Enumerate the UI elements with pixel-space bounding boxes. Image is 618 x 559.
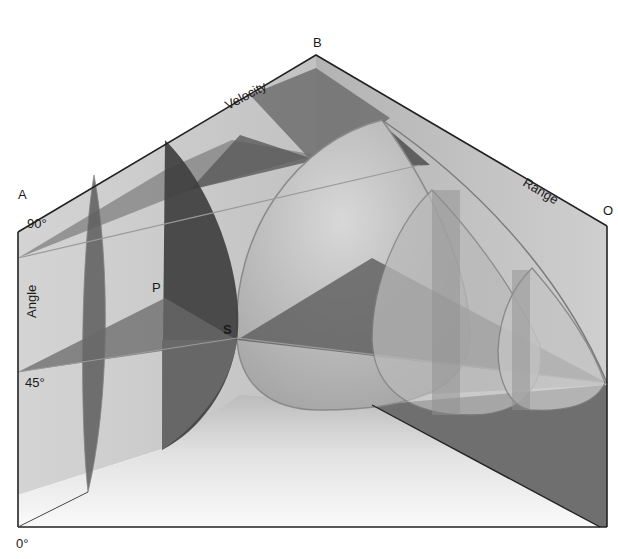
- corner-label-o: O: [603, 203, 613, 218]
- point-label-s: S: [223, 322, 232, 337]
- corner-label-a: A: [18, 187, 27, 202]
- tick-45-degrees: 45°: [25, 375, 45, 390]
- corner-label-b: B: [313, 35, 322, 50]
- tick-90-degrees: 90°: [27, 216, 47, 231]
- tick-0-degrees: 0°: [16, 536, 28, 551]
- small-bulb-band: [512, 270, 530, 410]
- mid-bulb-band: [432, 190, 460, 415]
- point-label-p: P: [152, 280, 161, 295]
- axis-label-angle: Angle: [24, 285, 39, 318]
- projectile-diagram: A B O Velocity Range Angle 90° 45° 0° P …: [0, 0, 618, 559]
